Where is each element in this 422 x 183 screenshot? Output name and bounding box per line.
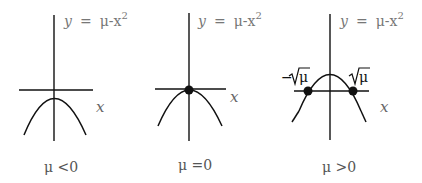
- parabola-curve: [158, 90, 222, 126]
- parabola-curve: [24, 99, 86, 136]
- root-label-positive: μ: [349, 68, 370, 85]
- bifurcation-diagram: y=μ-x2 x μ <0 y=μ-x2 x μ =0 − μ μ y=μ-x: [0, 0, 422, 183]
- equation-label: y=μ-x2: [339, 10, 404, 29]
- equation-label: y=μ-x2: [197, 10, 262, 29]
- fixed-point-marker: [185, 86, 194, 95]
- mu-symbol: μ: [359, 69, 368, 85]
- x-axis-label: x: [96, 98, 105, 116]
- equation-label: y=μ-x2: [63, 10, 128, 29]
- fixed-point-left-marker: [304, 87, 313, 96]
- minus-sign: −: [281, 69, 293, 85]
- parabola-tail-right: [361, 111, 366, 122]
- x-axis-label: x: [380, 98, 389, 116]
- caption: μ <0: [44, 159, 78, 175]
- panel-mu-positive: − μ μ y=μ-x2 x μ >0: [281, 10, 404, 175]
- parabola-tail-left: [292, 111, 299, 122]
- caption: μ =0: [178, 157, 212, 173]
- panel-mu-negative: y=μ-x2 x μ <0: [19, 10, 128, 175]
- root-label-negative: − μ: [281, 68, 310, 85]
- fixed-point-right-marker: [349, 87, 358, 96]
- x-axis-label: x: [230, 88, 239, 106]
- panel-mu-zero: y=μ-x2 x μ =0: [155, 10, 262, 173]
- caption: μ >0: [322, 159, 356, 175]
- mu-symbol: μ: [299, 69, 308, 85]
